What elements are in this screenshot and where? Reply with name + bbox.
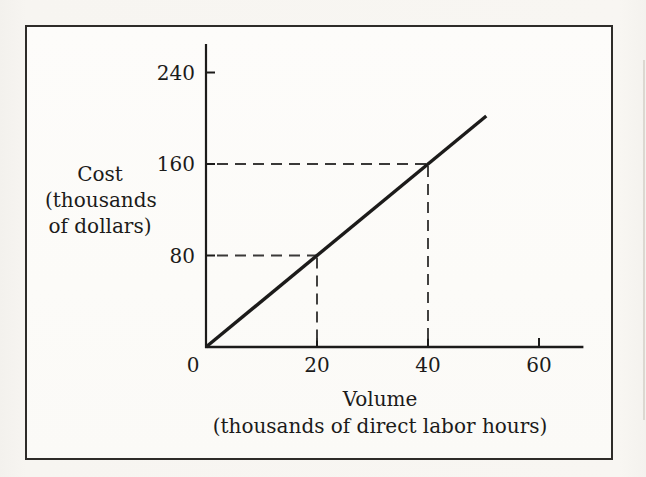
y-axis-title: Cost (thousands of dollars) xyxy=(45,161,155,239)
y-tick-label: 80 xyxy=(170,244,195,268)
x-tick-label: 60 xyxy=(526,353,551,377)
y-axis-title-line1: Cost xyxy=(45,161,155,187)
page-edge-shadow xyxy=(643,60,645,420)
y-axis-title-line3: of dollars) xyxy=(45,213,155,239)
x-axis-title: Volume (thousands of direct labor hours) xyxy=(200,386,560,440)
x-axis-title-sub: (thousands of direct labor hours) xyxy=(200,413,560,440)
y-tick-label: 160 xyxy=(157,152,195,176)
y-axis-title-line2: (thousands xyxy=(45,187,155,213)
x-axis-title-main: Volume xyxy=(200,386,560,413)
y-tick-label: 240 xyxy=(157,61,195,85)
figure-frame: 801602400204060 Cost (thousands of dolla… xyxy=(25,25,613,460)
total-cost-line xyxy=(206,116,486,347)
x-tick-label: 20 xyxy=(304,353,329,377)
x-tick-label: 0 xyxy=(187,353,200,377)
x-tick-label: 40 xyxy=(415,353,440,377)
